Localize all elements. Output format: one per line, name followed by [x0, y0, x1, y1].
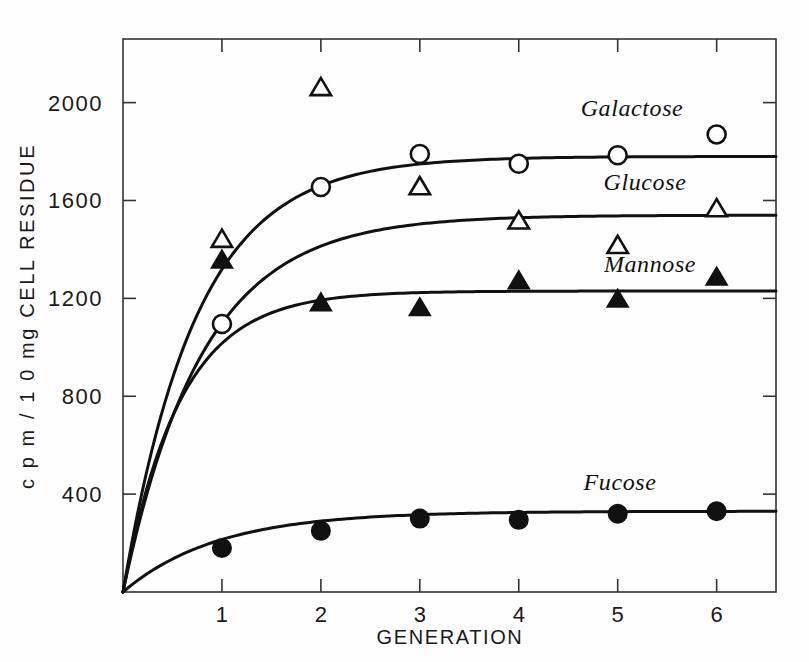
datapoint-fucose-gen6	[708, 502, 726, 520]
x-tick-label: 6	[711, 602, 723, 627]
datapoint-mannose-gen6	[706, 268, 726, 285]
series-label-galactose: Galactose	[581, 95, 684, 121]
datapoint-fucose-gen2	[312, 522, 330, 540]
datapoint-fucose-gen1	[213, 539, 231, 557]
datapoint-mannose-gen4	[509, 271, 529, 288]
datapoint-glucose-gen6	[706, 199, 726, 216]
x-tick-label: 4	[513, 602, 525, 627]
x-tick-label: 1	[216, 602, 228, 627]
y-tick-label: 1600	[48, 188, 103, 213]
datapoint-glucose-gen3	[410, 177, 430, 194]
x-tick-label: 5	[612, 602, 624, 627]
datapoint-glucose-gen1	[212, 230, 232, 247]
series-label-fucose: Fucose	[583, 469, 657, 495]
x-tick-label: 3	[414, 602, 426, 627]
x-axis-tick-labels: 123456	[216, 602, 723, 627]
series-curves	[123, 157, 776, 592]
y-tick-label: 1200	[48, 286, 103, 311]
datapoint-fucose-gen4	[510, 511, 528, 529]
datapoint-glucose-gen2	[311, 78, 331, 95]
chart-canvas: 400800120016002000 123456 GalactoseGluco…	[0, 0, 809, 662]
y-axis-title: c p m / 1 0 mg CELL RESIDUE	[16, 143, 38, 489]
y-tick-label: 400	[62, 482, 103, 507]
y-axis-tick-labels: 400800120016002000	[48, 91, 103, 508]
y-axis-ticks-right	[763, 103, 776, 495]
series-label-glucose: Glucose	[604, 169, 687, 195]
y-axis-ticks-left	[123, 103, 136, 495]
x-axis-ticks-top	[222, 39, 717, 52]
datapoint-glucose-gen4	[509, 211, 529, 228]
datapoint-galactose-gen4	[510, 155, 528, 173]
y-tick-label: 800	[62, 384, 103, 409]
datapoint-galactose-gen3	[411, 145, 429, 163]
series-label-mannose: Mannose	[603, 251, 696, 277]
datapoint-fucose-gen5	[609, 505, 627, 523]
datapoint-galactose-gen2	[312, 178, 330, 196]
y-tick-label: 2000	[48, 91, 103, 116]
series-inline-labels: GalactoseGlucoseMannoseFucose	[581, 95, 696, 495]
figure-container: 400800120016002000 123456 GalactoseGluco…	[0, 0, 809, 662]
datapoint-fucose-gen3	[411, 510, 429, 528]
datapoint-galactose-gen6	[708, 125, 726, 143]
x-axis-ticks-bottom	[222, 579, 717, 592]
x-axis-title: GENERATION	[377, 626, 524, 648]
datapoint-mannose-gen3	[410, 298, 430, 315]
datapoint-galactose-gen1	[213, 315, 231, 333]
x-tick-label: 2	[315, 602, 327, 627]
datapoint-galactose-gen5	[609, 146, 627, 164]
